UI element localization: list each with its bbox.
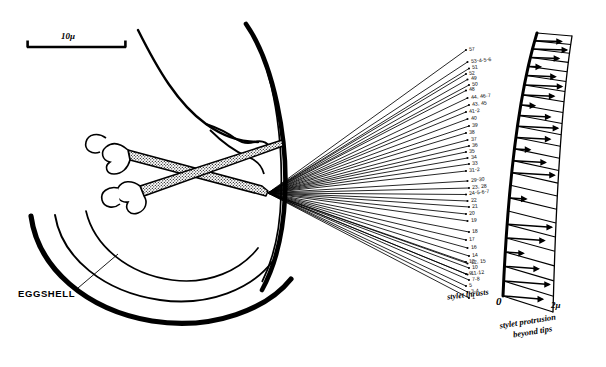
thrust-label: 20: [469, 210, 476, 216]
thrust-line-endpoint: [465, 89, 467, 91]
thrust-line-endpoint: [466, 61, 468, 63]
thrust-line-endpoint: [468, 231, 470, 233]
thrust-line-endpoint: [468, 267, 470, 269]
thrust-line-endpoint: [468, 206, 470, 208]
thrust-line-endpoint: [468, 163, 470, 165]
thrust-line-endpoint: [465, 285, 467, 287]
thrust-line-endpoint: [465, 261, 467, 263]
thrust-line-endpoint: [465, 193, 467, 195]
thrust-line-endpoint: [468, 145, 470, 147]
thrust-line-endpoint: [465, 111, 467, 113]
thrust-label: 40: [470, 115, 477, 121]
thrust-label: 17: [469, 236, 476, 242]
thrust-line-endpoint: [468, 104, 470, 106]
thrust-line-endpoint: [468, 187, 470, 189]
thrust-line-endpoint: [468, 125, 470, 127]
thrust-line-endpoint: [465, 49, 467, 51]
eggshell-label: EGGSHELL: [18, 288, 75, 299]
thrust-label: 18: [472, 228, 479, 234]
thrust-line-endpoint: [465, 151, 467, 153]
thrust-label: 7-8: [472, 276, 480, 282]
thrust-label: 48: [469, 86, 476, 92]
thrust-line-endpoint: [465, 170, 467, 172]
thrust-line-endpoint: [466, 97, 468, 99]
thrust-label: 39: [472, 122, 479, 128]
thrust-label: 16: [470, 244, 477, 250]
thrust-line-endpoint: [466, 200, 468, 202]
thrust-label: 21: [472, 203, 479, 209]
thrust-line-endpoint: [466, 78, 468, 80]
thrust-label: 19: [470, 217, 477, 223]
thrust-line-endpoint: [465, 239, 467, 241]
thrust-label: 57: [469, 46, 476, 52]
thrust-line-endpoint: [466, 247, 468, 249]
thrust-label: 38: [469, 129, 476, 135]
thrust-line-endpoint: [468, 255, 470, 257]
scale-bar-label: 10μ: [61, 31, 75, 41]
thrust-line-endpoint: [465, 73, 467, 75]
thrust-line-endpoint: [468, 279, 470, 281]
arc-scale-max-label: 2μ: [551, 300, 561, 310]
figure-canvas: 10μ EGGSHELL 5753-4-5-6515249504844, 46-…: [0, 0, 606, 367]
thrust-label: 31-2: [469, 166, 480, 173]
thrust-label: 41-2: [469, 107, 480, 114]
thrust-line-endpoint: [466, 180, 468, 182]
thrust-line-endpoint: [466, 118, 468, 120]
thrust-line-endpoint: [465, 132, 467, 134]
protrusion-arrow: [533, 49, 566, 50]
thrust-line-endpoint: [465, 213, 467, 215]
stylet-thrust-diagram: [0, 0, 606, 367]
thrust-line-endpoint: [466, 220, 468, 222]
thrust-line-endpoint: [466, 157, 468, 159]
arc-scale-zero-label: 0: [496, 295, 502, 307]
thrust-line-endpoint: [466, 139, 468, 141]
